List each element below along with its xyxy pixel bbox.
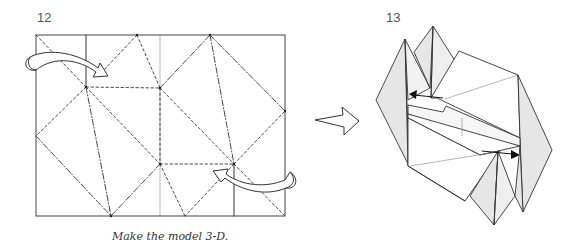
folded-model — [376, 26, 552, 225]
rotation-arrow-bottom-right — [213, 169, 296, 192]
rotation-arrow-top-left — [26, 52, 108, 77]
transition-arrow — [315, 107, 359, 135]
diagram-canvas — [0, 0, 579, 252]
